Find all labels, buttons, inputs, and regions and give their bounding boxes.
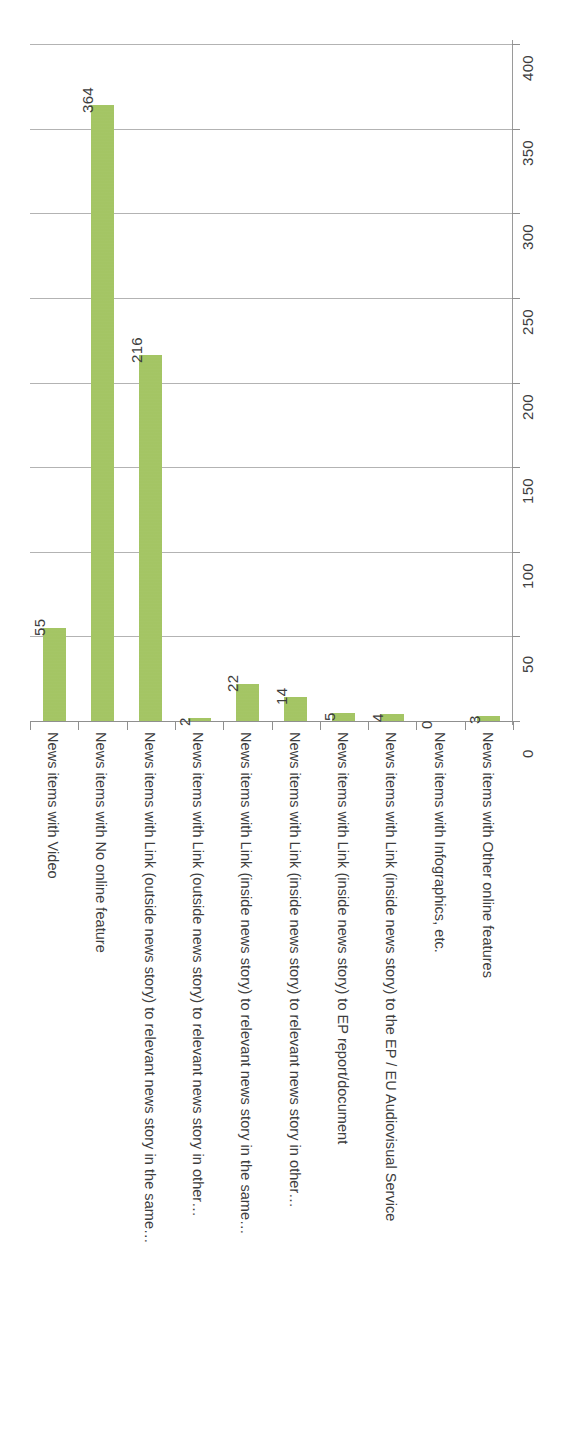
bar-value-label: 55 — [31, 619, 48, 636]
value-tick-400 — [512, 44, 520, 45]
category-tick — [223, 721, 224, 730]
gridline-400 — [30, 44, 513, 45]
value-axis-label: 250 — [519, 309, 536, 335]
bar-value-label: 2 — [176, 717, 193, 726]
category-tick — [320, 721, 321, 730]
value-tick-350 — [512, 129, 520, 130]
category-tick — [272, 721, 273, 730]
category-tick — [30, 721, 31, 730]
category-label: News items with Other online features — [480, 732, 495, 978]
category-tick — [368, 721, 369, 730]
bar — [43, 628, 66, 721]
category-label: News items with Link (outside news story… — [142, 732, 157, 1244]
category-label: News items with Link (inside news story)… — [239, 732, 254, 1235]
bar-value-label: 14 — [273, 688, 290, 705]
value-tick-150 — [512, 467, 520, 468]
value-tick-300 — [512, 213, 520, 214]
bar-value-label: 22 — [224, 674, 241, 691]
value-axis-label: 0 — [519, 749, 536, 758]
category-label: News items with Link (inside news story)… — [384, 732, 399, 1221]
value-tick-100 — [512, 552, 520, 553]
value-axis-label: 300 — [519, 224, 536, 250]
category-label: News items with Link (outside news story… — [191, 732, 206, 1217]
value-tick-200 — [512, 383, 520, 384]
bar-value-label: 216 — [128, 337, 145, 363]
value-tick-250 — [512, 298, 520, 299]
category-label: News items with Infographics, etc. — [432, 732, 447, 953]
bar-value-label: 4 — [369, 714, 386, 723]
bar — [139, 355, 162, 721]
bar-value-label: 364 — [79, 87, 96, 113]
bar-chart: 050100150200250300350400 553642162221454… — [0, 0, 584, 1439]
category-label: News items with Video — [46, 732, 61, 879]
category-tick — [127, 721, 128, 730]
category-label: News items with No online feature — [94, 732, 109, 953]
value-axis-label: 100 — [519, 563, 536, 589]
value-axis-label: 200 — [519, 394, 536, 420]
value-axis-label: 50 — [519, 656, 536, 673]
bar-value-label: 5 — [321, 712, 338, 721]
value-tick-50 — [512, 636, 520, 637]
category-label: News items with Link (inside news story)… — [287, 732, 302, 1208]
category-label: News items with Link (inside news story)… — [335, 732, 350, 1144]
bar — [91, 105, 114, 721]
value-axis-label: 400 — [519, 55, 536, 81]
bar-value-label: 0 — [418, 720, 435, 729]
category-tick — [78, 721, 79, 730]
bar-value-label: 3 — [466, 715, 483, 724]
category-tick — [513, 721, 514, 730]
value-axis-label: 350 — [519, 140, 536, 166]
value-axis-label: 150 — [519, 478, 536, 504]
